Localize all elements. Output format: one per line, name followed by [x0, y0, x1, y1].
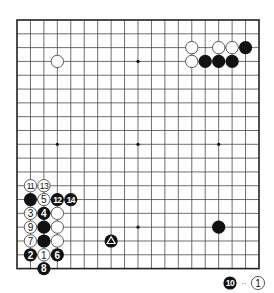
stone-move-number: 4 [41, 208, 47, 219]
white-stone-7: 7 [24, 235, 36, 247]
black-stone [105, 234, 118, 247]
white-stone [186, 41, 198, 53]
white-stone-3: 3 [24, 207, 36, 219]
stone-move-number: 6 [55, 250, 61, 261]
stone-move-number: 3 [28, 208, 34, 219]
stone-move-number: 11 [27, 181, 35, 191]
black-stone-4: 4 [37, 207, 50, 220]
caption-separator: ·· [241, 279, 246, 288]
black-stone [212, 221, 225, 234]
white-stone [186, 55, 198, 67]
black-stone [37, 234, 50, 247]
white-stone [51, 221, 63, 233]
caption-white-stone-label: 1 [255, 278, 261, 289]
black-stone [24, 193, 37, 206]
black-stone-6: 6 [51, 248, 64, 261]
white-stone-9: 9 [24, 221, 36, 233]
black-stone-12: 12 [51, 193, 64, 206]
white-stone [51, 55, 63, 67]
caption-white-stone: 1 [251, 276, 264, 289]
black-stone [239, 41, 252, 54]
black-stone-2: 2 [24, 248, 37, 261]
white-stone [51, 207, 63, 219]
stone-move-number: 1 [41, 250, 47, 261]
caption-black-stone-label: 10 [226, 278, 235, 288]
move-caption: 10 ·· 1 [222, 275, 270, 291]
stone-move-number: 5 [41, 194, 47, 205]
stone-move-number: 14 [67, 195, 76, 205]
black-stone [226, 55, 239, 68]
stone-move-number: 2 [28, 250, 34, 261]
white-stone-5: 5 [38, 193, 50, 205]
white-stone [51, 235, 63, 247]
white-stone [212, 41, 224, 53]
stone-move-number: 8 [41, 263, 47, 274]
white-stone [226, 41, 238, 53]
stone-move-number: 13 [40, 181, 49, 191]
black-stone [212, 55, 225, 68]
white-stone-11: 11 [24, 180, 36, 192]
black-stone-8: 8 [37, 262, 50, 275]
go-board: 11135121434972168 [0, 0, 274, 293]
black-stone [37, 221, 50, 234]
black-stone [199, 55, 212, 68]
stone-move-number: 7 [28, 236, 34, 247]
black-stone-14: 14 [64, 193, 77, 206]
stone-move-number: 9 [28, 222, 34, 233]
caption-black-stone: 10 [223, 276, 236, 289]
stone-move-number: 12 [53, 195, 62, 205]
white-stone-1: 1 [38, 249, 50, 261]
white-stone-13: 13 [38, 180, 50, 192]
